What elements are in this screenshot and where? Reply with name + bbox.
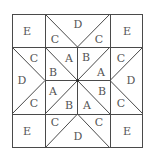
quilt-block-diagram: EEEEDCCDCCDCCDCCABBAABBA [0,0,150,158]
label-bl-e: E [23,125,31,138]
label-center-b-2: B [82,51,90,64]
label-center-b-4: B [98,85,106,98]
label-right-c-bottom: C [117,97,125,110]
label-center-b-3: B [65,99,73,112]
label-top-c-right: C [95,33,103,46]
center-point [76,79,79,82]
label-br-e: E [123,125,131,138]
label-bottom-c-left: C [51,116,59,129]
label-center-a-3: A [48,85,58,98]
label-top-d: D [74,18,83,31]
label-center-a-2: A [96,66,106,79]
label-center-b-1: B [49,66,57,79]
label-left-c-bottom: C [30,97,38,110]
label-center-a-1: A [64,52,74,65]
label-left-d: D [18,74,27,87]
label-tr-e: E [123,25,131,38]
label-tl-e: E [23,25,31,38]
label-bottom-d: D [74,130,83,143]
label-right-c-top: C [117,52,125,65]
label-right-d: D [127,74,136,87]
label-center-a-4: A [82,99,92,112]
label-bottom-c-right: C [95,116,103,129]
label-left-c-top: C [30,52,38,65]
label-top-c-left: C [51,33,59,46]
